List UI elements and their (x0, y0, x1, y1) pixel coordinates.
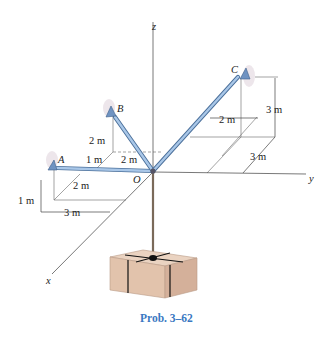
z-axis-label: z (151, 21, 156, 32)
point-C-label: C (231, 64, 239, 75)
y-axis (153, 172, 306, 174)
axes (52, 22, 306, 274)
dim-B-y: 2 m (121, 154, 137, 165)
figure-caption: Prob. 3–62 (140, 312, 193, 324)
box-weight (110, 250, 197, 298)
point-B-label: B (117, 103, 124, 114)
joint-O (150, 168, 155, 173)
dim-A-height: 1 m (18, 195, 34, 206)
x-axis-label: x (45, 275, 51, 286)
point-A-label: A (57, 154, 65, 165)
dim-C-x: 3 m (250, 151, 266, 162)
dimension-arrows (41, 78, 275, 212)
dim-A-y: 3 m (64, 207, 80, 218)
struts (57, 77, 238, 171)
dim-A-B-gap: 1 m (86, 154, 102, 165)
dim-C-y-offset: 2 m (219, 114, 235, 125)
origin-label: O (133, 174, 141, 185)
dim-B-height: 2 m (89, 135, 105, 146)
y-axis-label: y (308, 173, 314, 184)
dim-C-height: 3 m (266, 104, 282, 115)
statics-diagram: z y x O A B C 1 m 2 m 3 m 1 m 2 m 2 m 3 … (0, 0, 328, 340)
dim-A-x: 2 m (73, 180, 89, 191)
